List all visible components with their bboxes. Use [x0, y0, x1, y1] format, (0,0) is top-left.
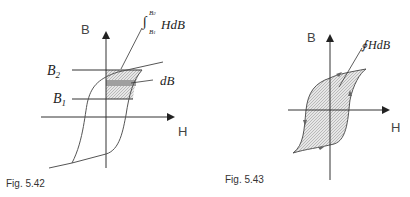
- direction-arrow-bottom: [318, 147, 324, 150]
- b1-label: B1: [53, 91, 66, 108]
- fig1-b-axis-label: B: [81, 22, 90, 37]
- integral-upper-limit: B2: [149, 9, 156, 17]
- fig2-caption: Fig. 5.43: [225, 174, 264, 185]
- fig1-caption: Fig. 5.42: [6, 178, 45, 189]
- integral-lower-limit: B1: [149, 28, 156, 36]
- integral-leader: [121, 28, 142, 69]
- dB-label: dB: [160, 73, 175, 88]
- loop-integral-label: HdB: [367, 38, 391, 52]
- integral-symbol: ∫: [142, 14, 148, 30]
- hysteresis-diagrams: B H B2 B1 ∫ B2 B1 HdB dB Fig. 5.42 B H ∮…: [0, 0, 410, 197]
- b2-label: B2: [47, 63, 61, 80]
- integral-label: HdB: [160, 17, 185, 32]
- fig2-b-axis-label: B: [307, 30, 316, 45]
- fig1-h-axis-label: H: [178, 124, 187, 139]
- fig2-h-axis-label: H: [391, 120, 400, 135]
- figure-5-43: [288, 36, 388, 180]
